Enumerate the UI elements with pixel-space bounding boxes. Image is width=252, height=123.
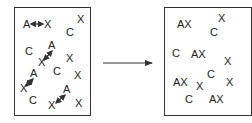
left_panel-label-c: C [29,95,37,106]
left_panel-label-a: A [23,19,30,30]
left_panel-label-c: C [53,66,61,77]
right_panel-label-ax: AX [191,49,206,60]
right_panel-label-x: X [226,77,233,88]
right_panel-label-x: X [224,56,231,67]
left_panel-label-x: X [75,98,82,109]
left_panel-label-x: X [20,83,27,94]
right_panel-label-c: C [172,48,180,59]
left_panel-label-x: X [66,53,73,64]
left_panel-label-a: A [30,68,37,79]
left_panel-label-c: C [25,46,33,57]
left_panel-label-x: X [44,19,51,30]
right_panel-label-c: C [207,69,215,80]
right_panel-label-c: C [210,27,218,38]
left_panel-label-x: X [48,100,55,111]
left_panel-label-x: X [77,14,84,25]
left_panel-label-x: X [38,57,45,68]
right_panel-label-c: C [185,94,193,105]
right_panel-label-ax: AX [173,77,188,88]
left_panel-label-x: X [74,70,81,81]
right_panel-label-x: X [218,13,225,24]
right_panel-label-x: X [196,81,203,92]
binding-arrows [26,24,65,103]
left_panel-label-a: A [63,84,70,95]
double-arrow-icon [56,95,65,103]
right_panel-label-ax: AX [209,94,224,105]
left_panel-label-a: A [48,40,55,51]
right_panel-label-ax: AX [177,19,192,30]
left_panel-label-c: C [66,27,74,38]
